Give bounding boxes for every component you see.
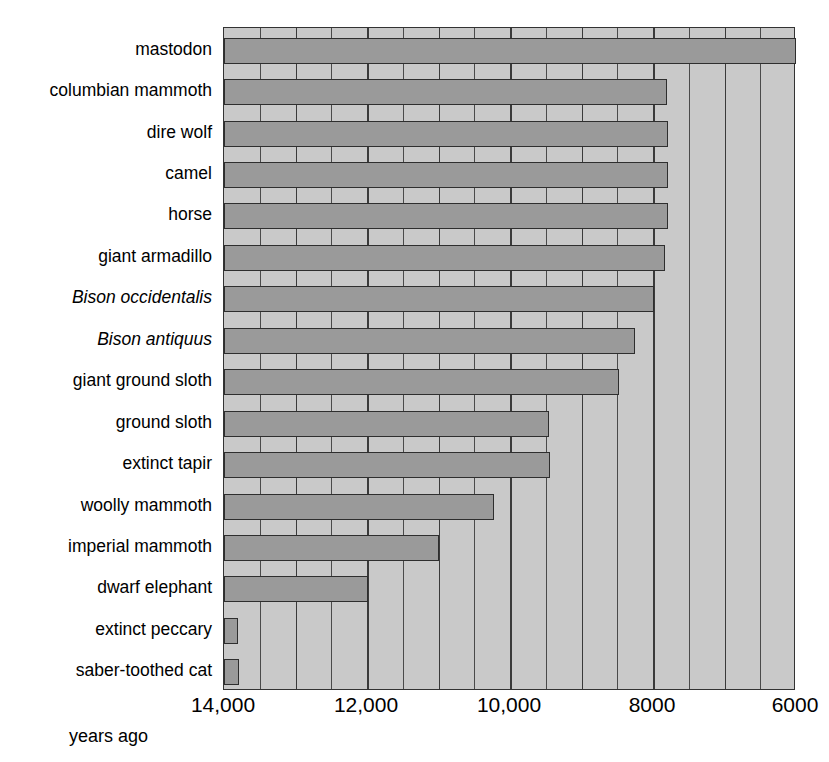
tick-label-8000: 8000	[629, 694, 676, 715]
chart-root: mastodoncolumbian mammothdire wolfcamelh…	[0, 0, 829, 762]
x-axis-title-text: years ago	[69, 726, 148, 746]
category-label: giant ground sloth	[73, 372, 212, 390]
gridline-7500	[689, 28, 690, 689]
plot-area	[223, 27, 795, 690]
category-label: imperial mammoth	[68, 538, 212, 556]
bar	[224, 328, 635, 354]
bar	[224, 286, 654, 312]
category-label: ground sloth	[116, 414, 212, 432]
tick-label-10000: 10,000	[477, 694, 541, 715]
bar	[224, 452, 550, 478]
category-label: mastodon	[135, 41, 212, 59]
category-label: woolly mammoth	[81, 497, 212, 515]
gridline-6500	[760, 28, 761, 689]
x-axis-title: years ago	[0, 726, 829, 747]
category-label: Bison occidentalis	[72, 289, 212, 307]
bar	[224, 245, 665, 271]
bar	[224, 494, 494, 520]
bar	[224, 121, 668, 147]
gridline-7000	[725, 28, 727, 689]
bar	[224, 576, 368, 602]
category-axis-labels: mastodoncolumbian mammothdire wolfcamelh…	[0, 27, 218, 690]
category-label: giant armadillo	[98, 248, 212, 266]
tick-label-14000: 14,000	[191, 694, 255, 715]
bar	[224, 203, 668, 229]
category-label: horse	[168, 206, 212, 224]
bar	[224, 659, 239, 685]
bar	[224, 162, 668, 188]
category-label: dwarf elephant	[97, 579, 212, 597]
category-label: columbian mammoth	[50, 82, 212, 100]
category-label: extinct peccary	[95, 621, 212, 639]
bar	[224, 38, 796, 64]
tick-label-6000: 6000	[772, 694, 819, 715]
bar	[224, 535, 439, 561]
category-label: camel	[165, 165, 212, 183]
bar	[224, 79, 667, 105]
tick-label-12000: 12,000	[334, 694, 398, 715]
category-label: dire wolf	[147, 124, 212, 142]
bar	[224, 369, 619, 395]
value-axis-tick-labels: 14,00012,00010,00080006000	[0, 694, 829, 724]
bar	[224, 618, 238, 644]
bar	[224, 411, 549, 437]
category-label: saber-toothed cat	[76, 662, 212, 680]
category-label: extinct tapir	[123, 455, 212, 473]
category-label: Bison antiquus	[97, 331, 212, 349]
